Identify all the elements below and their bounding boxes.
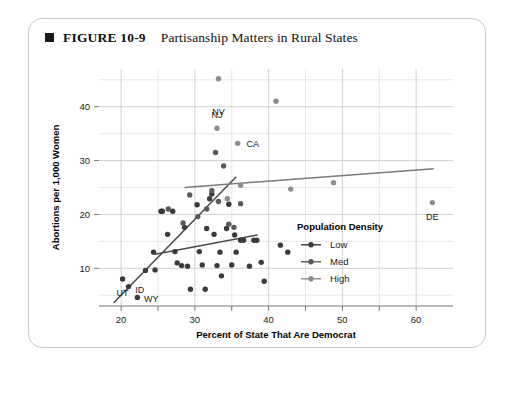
data-point: [262, 279, 267, 284]
data-point: [278, 242, 283, 247]
x-axis-title: Percent of State That Are Democrat: [196, 329, 356, 340]
data-point: [120, 276, 125, 281]
data-point: [185, 263, 190, 268]
data-point: [187, 192, 192, 197]
data-point: [238, 183, 243, 188]
point-label-wy: WY: [144, 294, 159, 304]
data-point: [254, 238, 259, 243]
data-point: [219, 273, 224, 278]
data-point: [217, 249, 222, 254]
data-point: [165, 232, 170, 237]
data-point: [179, 263, 184, 268]
figure-title: Partisanship Matters in Rural States: [161, 30, 358, 46]
legend-title: Population Density: [297, 221, 384, 232]
data-point: [203, 287, 208, 292]
legend-marker-dot-med: [308, 259, 313, 264]
data-point: [226, 201, 231, 206]
x-tick-label: 50: [337, 314, 348, 325]
y-tick-label: 40: [79, 101, 90, 112]
x-tick-label: 60: [411, 314, 422, 325]
point-label-nj: NJ: [212, 110, 223, 120]
data-point: [285, 249, 290, 254]
data-point: [160, 209, 165, 214]
figure-header: FIGURE 10-9 Partisanship Matters in Rura…: [45, 30, 358, 46]
trend-line-high: [185, 169, 434, 188]
data-point: [211, 232, 216, 237]
legend-label-med[interactable]: Med: [330, 256, 348, 267]
data-point: [135, 295, 140, 300]
data-point: [273, 99, 278, 104]
data-point: [214, 126, 219, 131]
legend-marker-dot-low: [308, 242, 313, 247]
y-tick-label: 20: [79, 209, 90, 220]
data-point: [204, 226, 209, 231]
data-point: [213, 150, 218, 155]
data-point: [225, 196, 230, 201]
point-label-ut: UT: [117, 288, 129, 298]
figure-bullet-square-icon: [45, 33, 54, 42]
data-point: [214, 263, 219, 268]
point-annotations: NVNJCADEUTIDWY: [117, 107, 439, 304]
data-point: [247, 263, 252, 268]
data-point: [180, 220, 185, 225]
figure-card: FIGURE 10-9 Partisanship Matters in Rura…: [28, 18, 486, 348]
legend-marker-dot-high: [308, 276, 313, 281]
data-point: [194, 202, 199, 207]
grid-minor: [99, 69, 453, 306]
x-tick-label: 40: [263, 314, 274, 325]
data-point: [430, 200, 435, 205]
data-point: [226, 221, 231, 226]
data-point: [204, 206, 209, 211]
y-tick-label: 10: [79, 263, 90, 274]
data-points: [120, 76, 435, 300]
data-point: [172, 249, 177, 254]
point-label-ca: CA: [247, 139, 260, 149]
data-point: [231, 225, 236, 230]
legend[interactable]: Population DensityLowMedHigh: [297, 221, 384, 284]
data-point: [235, 141, 240, 146]
x-tick-label: 30: [190, 314, 201, 325]
trend-line-low: [114, 177, 236, 303]
data-point: [207, 196, 212, 201]
data-point: [331, 180, 336, 185]
data-point: [232, 232, 237, 237]
y-axis-title: Abortions per 1,000 Women: [50, 125, 61, 251]
data-point: [233, 249, 238, 254]
trend-lines: [114, 169, 434, 303]
data-point: [288, 186, 293, 191]
legend-label-high[interactable]: High: [330, 273, 350, 284]
data-point: [200, 262, 205, 267]
data-point: [216, 199, 221, 204]
data-point: [188, 287, 193, 292]
figure-number: FIGURE 10-9: [63, 30, 146, 46]
data-point: [209, 188, 214, 193]
data-point: [259, 260, 264, 265]
data-point: [143, 268, 148, 273]
data-point: [221, 163, 226, 168]
tick-labels: 203040506010203040: [79, 101, 421, 325]
chart-canvas: NVNJCADEUTIDWY 203040506010203040 Percen…: [29, 55, 485, 347]
axes: [94, 107, 453, 311]
data-point: [238, 201, 243, 206]
data-point: [216, 76, 221, 81]
x-tick-label: 20: [116, 314, 127, 325]
data-point: [166, 206, 171, 211]
data-point: [241, 238, 246, 243]
data-point: [151, 249, 156, 254]
point-label-id: ID: [135, 285, 145, 295]
point-label-de: DE: [426, 212, 439, 222]
axis-titles: Percent of State That Are DemocratAborti…: [50, 125, 357, 340]
data-point: [229, 262, 234, 267]
y-tick-label: 30: [79, 155, 90, 166]
scatter-plot: NVNJCADEUTIDWY 203040506010203040 Percen…: [29, 55, 485, 347]
data-point: [197, 249, 202, 254]
data-point: [195, 214, 200, 219]
data-point: [152, 267, 157, 272]
legend-label-low[interactable]: Low: [330, 239, 348, 250]
